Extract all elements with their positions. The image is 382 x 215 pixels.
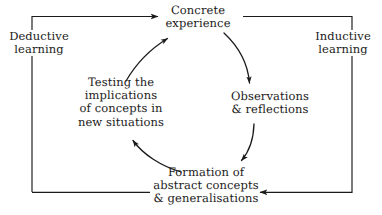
arrow-concrete-to-observations <box>224 33 250 83</box>
label-deductive-learning: Deductive learning <box>2 30 76 56</box>
node-formation-of-abstract-concepts: Formation of abstract concepts & general… <box>143 166 269 206</box>
node-observations-and-reflections: Observations & reflections <box>218 90 322 116</box>
node-concrete-experience: Concrete experience <box>155 4 241 30</box>
node-testing-the-implications: Testing the implications of concepts in … <box>66 76 176 129</box>
label-inductive-learning: Inductive learning <box>306 30 380 56</box>
arrow-observations-to-formation <box>242 124 255 161</box>
experiential-learning-cycle-diagram: Concrete experience Observations & refle… <box>0 0 382 215</box>
